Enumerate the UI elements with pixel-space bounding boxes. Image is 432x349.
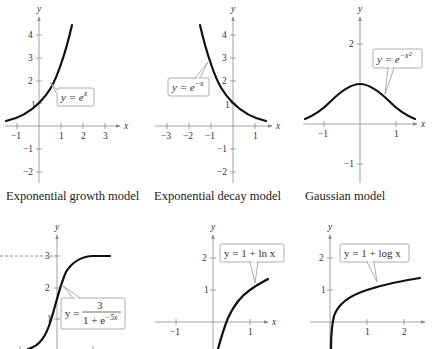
svg-text:−1: −1 [205,131,215,141]
svg-text:2: 2 [319,253,324,263]
caption-exponential-growth: Exponential growth model [6,189,139,204]
x-axis-label: x [271,317,277,327]
svg-text:2: 2 [45,283,50,293]
svg-text:−1: −1 [170,327,180,337]
svg-text:−3: −3 [161,131,171,141]
svg-text:3: 3 [45,251,50,261]
y-axis-label: y [36,4,42,14]
y-ticks: 2 1 [319,253,333,295]
svg-text:1: 1 [225,100,230,110]
y-axis-label: y [230,4,236,14]
svg-text:−2: −2 [183,131,193,141]
graph-common-log: y 1 2 2 1 y = 1 + log x [310,222,425,349]
x-axis-label: x [275,121,281,131]
svg-text:1: 1 [204,285,209,295]
graph-logistic: y 3 2 1 y = 3 1 + e−5x [0,222,125,349]
svg-text:4: 4 [222,30,227,40]
svg-text:4: 4 [28,30,33,40]
svg-text:2: 2 [222,76,227,86]
y-axis-label: y [54,222,60,232]
svg-text:−1: −1 [318,129,328,139]
curve-log [331,278,420,349]
svg-text:−1: −1 [217,144,227,154]
graph-exponential-growth: x y −1 1 2 3 4 3 2 1 −1 −2 y = ex [5,4,129,183]
graph-natural-log: x y −1 1 2 1 y = 1 + ln x [155,222,284,349]
caption-gaussian: Gaussian model [305,189,385,204]
y-axis-label: y [327,222,333,232]
svg-text:2: 2 [402,327,407,337]
svg-text:1: 1 [59,131,64,141]
y-ticks: 2 1 [202,253,216,295]
svg-text:3: 3 [97,299,103,311]
svg-text:−1: −1 [23,144,33,154]
figure-canvas: x y −1 1 2 3 4 3 2 1 −1 −2 y = ex x y −3… [0,0,432,349]
curve-ln [218,279,268,349]
svg-text:1: 1 [365,327,370,337]
svg-text:−1: −1 [11,131,21,141]
y-axis-label: y [210,222,216,232]
svg-text:1: 1 [253,131,258,141]
svg-text:−2: −2 [23,167,33,177]
equation-log: y = 1 + log x [344,247,401,259]
svg-text:1: 1 [321,285,326,295]
svg-text:2: 2 [349,39,354,49]
svg-text:−1: −1 [344,159,354,169]
svg-text:3: 3 [28,53,33,63]
caption-exponential-decay: Exponential decay model [154,189,281,204]
svg-text:−2: −2 [217,167,227,177]
x-axis-label: x [420,119,426,129]
svg-text:2: 2 [81,131,86,141]
equation-ln: y = 1 + ln x [224,247,276,259]
equation-growth: y = ex [60,89,88,103]
svg-text:3: 3 [103,131,108,141]
graph-exponential-decay: x y −3 −2 −1 1 4 3 2 1 −1 −2 y = e−x [155,4,281,183]
svg-text:2: 2 [202,253,207,263]
svg-text:2: 2 [28,76,33,86]
x-axis-label: x [123,121,129,131]
svg-text:1: 1 [394,129,399,139]
svg-text:3: 3 [222,53,227,63]
svg-text:1: 1 [248,327,253,337]
graph-gaussian: x y −1 1 2 −1 y = e−x2 [303,4,426,183]
svg-text:y =: y = [65,307,79,319]
y-axis-label: y [357,4,363,14]
